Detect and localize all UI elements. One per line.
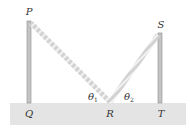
rope-rs [110,35,158,102]
pole-pq [27,21,31,103]
theta2-subscript: 2 [130,96,134,103]
rope-pr [31,23,110,102]
label-s: S [158,20,165,30]
theta1-subscript: 1 [94,96,98,103]
label-t: T [158,109,165,119]
pole-st [158,33,162,103]
label-theta2: θ2 [124,92,134,103]
label-q: Q [25,109,33,119]
label-theta1: θ1 [88,92,98,103]
label-r: R [106,109,114,119]
reflection-rope-diagram: P S Q R T θ1 θ2 [0,0,190,129]
label-p: P [26,7,33,17]
